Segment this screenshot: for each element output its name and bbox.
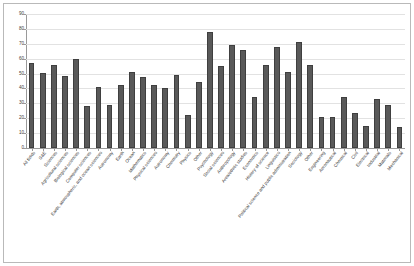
bar bbox=[196, 82, 202, 148]
bar bbox=[296, 42, 302, 148]
bar bbox=[385, 105, 391, 148]
bar-chart: 0102030405060708090 All fieldsS&EScience… bbox=[0, 0, 414, 266]
gridline bbox=[26, 118, 405, 119]
y-axis-tick-labels: 0102030405060708090 bbox=[0, 14, 24, 149]
bar bbox=[29, 63, 35, 148]
bar bbox=[374, 99, 380, 148]
bar bbox=[96, 87, 102, 148]
bar bbox=[341, 97, 347, 148]
bar bbox=[107, 105, 113, 148]
bar bbox=[140, 77, 146, 148]
bar bbox=[285, 72, 291, 148]
bar bbox=[252, 97, 258, 148]
bar bbox=[129, 72, 135, 148]
bar bbox=[363, 126, 369, 148]
bar bbox=[162, 88, 168, 148]
bar bbox=[151, 85, 157, 148]
gridline bbox=[26, 29, 405, 30]
y-tick-label: 20 bbox=[2, 116, 24, 121]
bar bbox=[51, 65, 57, 148]
bar bbox=[274, 47, 280, 148]
bar bbox=[40, 73, 46, 148]
y-tick-label: 0 bbox=[2, 146, 24, 151]
bar bbox=[240, 50, 246, 148]
gridline bbox=[26, 103, 405, 104]
y-tick-label: 90 bbox=[2, 12, 24, 17]
bar bbox=[207, 32, 213, 148]
y-tick-label: 70 bbox=[2, 42, 24, 47]
y-tick-label: 80 bbox=[2, 27, 24, 32]
gridline bbox=[26, 74, 405, 75]
bar bbox=[218, 66, 224, 148]
bar bbox=[174, 75, 180, 148]
bar bbox=[185, 115, 191, 148]
bar bbox=[352, 113, 358, 148]
y-tick-label: 30 bbox=[2, 101, 24, 106]
bar bbox=[330, 117, 336, 148]
bar bbox=[307, 65, 313, 148]
y-tick-label: 50 bbox=[2, 72, 24, 77]
gridline bbox=[26, 44, 405, 45]
bar bbox=[118, 85, 124, 148]
bar bbox=[62, 76, 68, 148]
bar bbox=[229, 45, 235, 148]
gridline bbox=[26, 133, 405, 134]
y-tick-label: 60 bbox=[2, 57, 24, 62]
gridline bbox=[26, 59, 405, 60]
y-tick-label: 10 bbox=[2, 131, 24, 136]
y-tick-label: 40 bbox=[2, 86, 24, 91]
bar bbox=[319, 117, 325, 148]
gridline bbox=[26, 88, 405, 89]
bar bbox=[84, 106, 90, 148]
bar bbox=[397, 127, 403, 148]
bar bbox=[263, 65, 269, 148]
plot-area bbox=[26, 14, 405, 148]
gridline bbox=[26, 14, 405, 15]
x-axis-tick-labels: All fieldsS&ESciencesAgricultural scienc… bbox=[26, 151, 405, 263]
bar bbox=[73, 59, 79, 148]
